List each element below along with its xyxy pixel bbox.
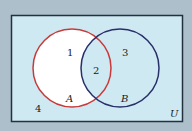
region-3-label: 3	[122, 47, 128, 58]
set-a-label: A	[65, 93, 73, 104]
region-4-label: 4	[35, 103, 41, 114]
venn-diagram: 1 2 3 4 A B U	[0, 0, 192, 131]
region-2-label: 2	[93, 65, 99, 76]
region-1-label: 1	[67, 47, 73, 58]
set-b-label: B	[120, 93, 128, 104]
universe-label: U	[170, 108, 179, 119]
